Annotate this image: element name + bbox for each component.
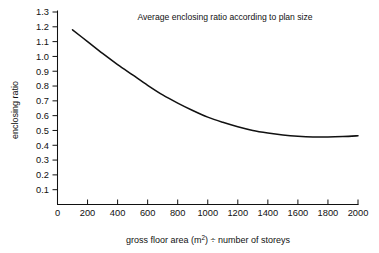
y-tick-label: 0.4 <box>36 141 49 151</box>
axis-lines <box>58 11 359 205</box>
y-tick-label: 0.6 <box>36 111 49 121</box>
x-tick-label: 0 <box>55 208 60 218</box>
x-axis-ticks: 0200400600800100012001400160018002000 <box>55 200 368 219</box>
y-tick-label: 1.0 <box>36 52 49 62</box>
x-tick-label: 800 <box>170 208 186 218</box>
y-tick-label: 1.3 <box>36 7 49 17</box>
x-tick-label: 2000 <box>348 208 369 218</box>
y-tick-label: 0.7 <box>36 96 49 106</box>
x-tick-label: 1400 <box>258 208 279 218</box>
y-tick-label: 0.5 <box>36 126 49 136</box>
y-tick-label: 0.9 <box>36 67 49 77</box>
y-tick-label: 0.3 <box>36 155 49 165</box>
x-tick-label: 1800 <box>318 208 339 218</box>
chart-figure: Average enclosing ratio according to pla… <box>0 0 379 253</box>
x-tick-label: 600 <box>140 208 156 218</box>
y-tick-label: 1.2 <box>36 22 49 32</box>
y-tick-label: 0.2 <box>36 170 49 180</box>
x-axis-title-after: ) ÷ number of storeys <box>205 235 290 245</box>
x-tick-label: 1000 <box>197 208 218 218</box>
x-tick-label: 400 <box>110 208 126 218</box>
data-curve-average-enclosing-ratio <box>73 30 358 137</box>
y-tick-label: 0.1 <box>36 185 49 195</box>
x-axis-title: gross floor area (m2) ÷ number of storey… <box>126 234 291 246</box>
x-tick-label: 1200 <box>227 208 248 218</box>
y-tick-label: 1.1 <box>36 37 49 47</box>
x-tick-label: 200 <box>80 208 96 218</box>
enclosing-ratio-line-chart: Average enclosing ratio according to pla… <box>0 0 379 253</box>
x-axis-title-before: gross floor area (m <box>126 235 202 245</box>
chart-title: Average enclosing ratio according to pla… <box>137 12 312 22</box>
y-axis-title: enclosing ratio <box>10 81 20 139</box>
y-tick-label: 0.8 <box>36 81 49 91</box>
y-axis-ticks: 0.10.20.30.40.50.60.70.80.91.01.11.21.3 <box>36 7 57 195</box>
x-tick-label: 1600 <box>288 208 309 218</box>
